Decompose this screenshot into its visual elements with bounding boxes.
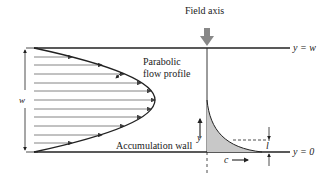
c-label: c xyxy=(224,155,228,165)
fff-diagram: Field axis Parabolic flow profile Accumu… xyxy=(0,0,334,183)
flow-arrows xyxy=(34,57,155,143)
y-eq-0-label: y = 0 xyxy=(293,147,314,157)
flow-profile-label: flow profile xyxy=(143,69,191,79)
accumulation-wall-label: Accumulation wall xyxy=(116,141,192,151)
y-label: y xyxy=(197,133,201,143)
w-label: w xyxy=(19,96,25,105)
l-label: l xyxy=(266,141,269,151)
field-axis-label: Field axis xyxy=(185,6,224,16)
field-arrow-icon xyxy=(200,36,214,46)
parabolic-label: Parabolic xyxy=(143,57,181,67)
y-eq-w-label: y = w xyxy=(293,43,316,53)
diagram-graphic xyxy=(0,0,334,183)
